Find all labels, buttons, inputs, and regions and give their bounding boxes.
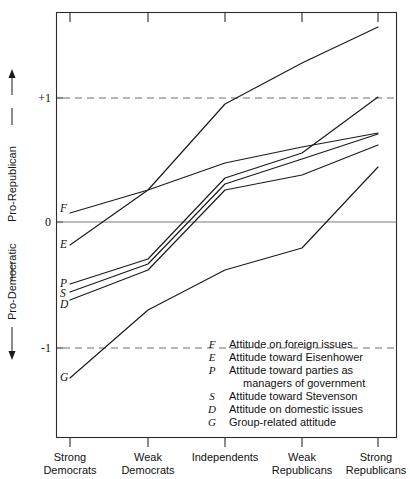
legend-key-4: D [207,403,216,415]
x-ticks-bottom [70,438,378,448]
attitude-line-chart: Pro-Republican Pro-Democratic +1 0 -1 [0,0,410,479]
legend-key-0: F [208,338,216,350]
legend-text-0: Attitude on foreign issues [229,338,353,350]
legend-key-2: P [208,364,216,376]
legend-text-2: Attitude toward parties as [229,364,354,376]
x-label-weak-democrats-line2: Democrats [121,464,175,476]
series-line-F [70,133,378,213]
y-tick-label-minus-one: -1 [41,341,51,355]
x-label-strong-republicans-line2: Republicans [346,464,407,476]
y-axis-lower-label: Pro-Democratic [6,243,18,320]
y-tick-plus-one: +1 [38,91,63,105]
legend-text-5: Group-related attitude [229,416,336,428]
x-label-strong-democrats-line2: Democrats [43,464,97,476]
x-ticks-top [70,13,378,23]
y-axis-lower-annotation: Pro-Democratic [6,243,18,360]
x-label-independents-line1: Independents [192,451,259,463]
series-line-E [70,27,378,245]
y-tick-zero: 0 [45,215,63,229]
legend-key-5: G [208,416,216,428]
series-key-E: E [59,238,67,250]
y-tick-label-zero: 0 [45,215,51,229]
x-label-strong-republicans-line1: Strong [360,451,392,463]
y-tick-minus-one: -1 [41,341,63,355]
series-key-F: F [59,202,68,214]
x-label-strong-democrats-line1: Strong [54,451,86,463]
x-axis-category-labels: Strong Democrats Weak Democrats Independ… [43,451,406,476]
legend-text-4: Attitude on domestic issues [229,403,363,415]
y-tick-label-plus-one: +1 [38,91,51,105]
x-label-weak-republicans-line1: Weak [288,451,316,463]
series-key-D: D [59,298,69,310]
legend-key-1: E [208,351,216,363]
chart-container: Pro-Republican Pro-Democratic +1 0 -1 [0,0,410,479]
x-label-weak-republicans-line2: Republicans [272,464,333,476]
series-key-G: G [60,371,69,383]
legend-text-1: Attitude toward Eisenhower [229,351,363,363]
y-axis-upper-label: Pro-Republican [6,146,18,222]
legend-key-3: S [209,390,215,402]
chart-legend: F Attitude on foreign issues E Attitude … [207,338,365,428]
x-label-weak-democrats-line1: Weak [134,451,162,463]
legend-text-3: Attitude toward Stevenson [229,390,357,402]
y-axis-upper-annotation: Pro-Republican [6,69,18,222]
legend-text-2-cont: managers of government [243,377,365,389]
